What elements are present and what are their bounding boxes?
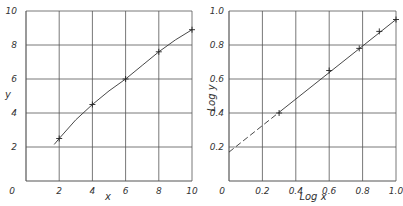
data-point-marker: [189, 27, 195, 33]
x-tick-label: 4: [90, 186, 96, 196]
x-axis-label: x: [104, 191, 111, 202]
y-axis-label: y: [4, 89, 12, 100]
linear-plot: 02468102468100yx: [4, 6, 198, 202]
y-tick-label: 6: [11, 74, 17, 84]
y-tick-label: 2: [11, 142, 17, 152]
y-tick-label: 8: [11, 40, 17, 50]
x-tick-label: 0.2: [255, 186, 270, 196]
data-point-marker: [376, 28, 382, 34]
y-tick-label: 0.6: [210, 74, 225, 84]
fit-curve: [54, 30, 192, 145]
y-tick-label: 0.2: [210, 142, 225, 152]
x-tick-label: 6: [123, 186, 129, 196]
x-axis-label: Log x: [299, 191, 326, 202]
y-tick-label: 4: [11, 108, 17, 118]
y-axis-label: Log y: [206, 83, 217, 111]
x-tick-label: 10: [186, 186, 198, 196]
x-tick-label: 8: [156, 186, 162, 196]
y-tick-label: 10: [6, 6, 18, 16]
x-tick-label: 1.0: [389, 186, 403, 196]
x-tick-label: 0.8: [355, 186, 370, 196]
y-tick-label: 0.8: [210, 40, 225, 50]
x-tick-label: 2: [56, 186, 62, 196]
chart-canvas: 02468102468100yx00.20.40.60.81.00.20.40.…: [0, 0, 403, 206]
fit-line: [279, 20, 396, 113]
fit-line-extrapolated: [229, 112, 279, 152]
origin-label: 0: [9, 186, 15, 196]
data-point-marker: [326, 68, 332, 74]
log-plot: 00.20.40.60.81.00.20.40.60.81.0Log yLog …: [206, 6, 403, 202]
y-tick-label: 1.0: [210, 6, 225, 16]
x-tick-label: 0: [219, 186, 225, 196]
